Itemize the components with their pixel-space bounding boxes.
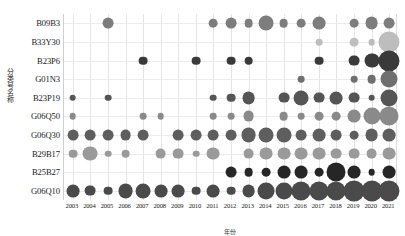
bubble-g06q50-2008[interactable] [157,113,164,120]
bubble-b23p6-2020[interactable] [364,53,379,68]
bubble-b23p19-2012[interactable] [227,93,236,102]
bubble-b09b3-2012[interactable] [226,18,237,29]
bubble-b25b27-2021[interactable] [383,166,396,179]
bubble-b09b3-2013[interactable] [244,19,253,28]
bubble-b23p19-2017[interactable] [313,92,324,103]
bubble-g06q30-2005[interactable] [103,129,114,140]
bubble-g06q10-2010[interactable] [191,186,200,195]
bubble-b29b17-2018[interactable] [331,148,342,159]
bubble-b25b27-2018[interactable] [327,163,346,182]
bubble-b23p19-2005[interactable] [105,94,112,101]
bubble-g06q10-2004[interactable] [85,185,96,196]
bubble-b25b27-2014[interactable] [262,168,271,177]
bubble-g06q30-2013[interactable] [241,127,256,142]
bubble-g06q10-2012[interactable] [227,186,236,195]
bubble-g06q30-2015[interactable] [276,127,291,142]
bubble-g01n3-2020[interactable] [367,75,376,84]
bubble-b23p19-2020[interactable] [368,94,375,101]
bubble-g06q30-2018[interactable] [331,129,342,140]
bubble-b23p19-2018[interactable] [330,91,343,104]
bubble-b29b17-2008[interactable] [155,148,166,159]
bubble-g06q30-2006[interactable] [120,129,131,140]
bubble-g06q10-2011[interactable] [207,184,220,197]
bubble-g06q30-2004[interactable] [85,129,96,140]
bubble-g06q30-2016[interactable] [296,129,307,140]
bubble-b25b27-2016[interactable] [295,166,308,179]
bubble-b29b17-2005[interactable] [105,150,112,157]
bubble-g06q30-2007[interactable] [138,129,149,140]
bubble-g06q50-2007[interactable] [140,113,147,120]
bubble-b23p6-2012[interactable] [227,56,236,65]
bubble-g06q30-2014[interactable] [259,127,274,142]
bubble-g06q30-2010[interactable] [190,129,201,140]
bubble-g06q10-2008[interactable] [154,184,167,197]
bubble-b29b17-2019[interactable] [349,148,360,159]
bubble-g06q10-2021[interactable] [379,180,400,201]
bubble-g06q30-2012[interactable] [226,129,237,140]
bubble-b25b27-2019[interactable] [348,166,361,179]
bubble-b09b3-2011[interactable] [209,19,218,28]
bubble-g06q30-2020[interactable] [365,128,378,141]
bubble-b33y30-2019[interactable] [350,38,359,47]
bubble-g01n3-2021[interactable] [381,71,398,88]
bubble-b33y30-2020[interactable] [368,39,375,46]
bubble-g06q30-2021[interactable] [383,128,396,141]
bubble-g06q50-2019[interactable] [348,110,361,123]
bubble-b29b17-2006[interactable] [121,149,130,158]
bubble-b09b3-2017[interactable] [312,17,325,30]
bubble-b25b27-2013[interactable] [244,168,253,177]
bubble-b29b17-2021[interactable] [383,147,396,160]
bubble-g06q10-2013[interactable] [242,184,255,197]
bubble-b25b27-2015[interactable] [277,166,290,179]
bubble-b09b3-2016[interactable] [297,19,306,28]
bubble-b23p19-2011[interactable] [210,94,217,101]
bubble-g06q10-2003[interactable] [66,184,79,197]
bubble-g06q50-2020[interactable] [363,108,380,125]
bubble-g06q10-2015[interactable] [275,182,292,199]
bubble-g06q50-2013[interactable] [243,111,254,122]
bubble-g06q30-2009[interactable] [173,129,184,140]
bubble-b09b3-2019[interactable] [350,19,359,28]
bubble-b25b27-2017[interactable] [315,168,324,177]
bubble-b23p6-2013[interactable] [244,56,253,65]
bubble-b23p6-2021[interactable] [379,50,400,71]
bubble-b29b17-2010[interactable] [192,150,199,157]
bubble-g06q50-2015[interactable] [279,112,288,121]
bubble-b23p6-2007[interactable] [139,56,148,65]
bubble-b23p19-2016[interactable] [294,90,309,105]
bubble-g06q50-2018[interactable] [332,112,341,121]
bubble-b23p19-2019[interactable] [349,92,360,103]
bubble-b09b3-2014[interactable] [259,16,274,31]
bubble-b23p19-2015[interactable] [278,92,289,103]
bubble-b29b17-2017[interactable] [312,147,325,160]
bubble-g06q10-2017[interactable] [309,181,328,200]
bubble-g06q10-2007[interactable] [136,183,151,198]
bubble-b09b3-2015[interactable] [279,19,288,28]
bubble-g06q30-2017[interactable] [312,128,325,141]
bubble-g06q50-2017[interactable] [315,112,324,121]
bubble-g06q10-2014[interactable] [258,182,275,199]
bubble-b29b17-2003[interactable] [68,149,77,158]
bubble-g06q30-2011[interactable] [208,129,219,140]
bubble-b23p6-2010[interactable] [191,56,200,65]
bubble-g06q10-2009[interactable] [172,184,185,197]
bubble-b09b3-2020[interactable] [365,17,378,30]
bubble-b23p19-2021[interactable] [381,89,398,106]
bubble-b25b27-2020[interactable] [368,169,375,176]
bubble-b29b17-2004[interactable] [83,146,98,161]
bubble-g06q50-2012[interactable] [228,113,235,120]
bubble-g06q30-2019[interactable] [350,131,359,140]
bubble-g06q50-2016[interactable] [298,113,305,120]
bubble-g06q50-2003[interactable] [69,113,76,120]
bubble-b23p19-2003[interactable] [69,94,76,101]
bubble-b09b3-2021[interactable] [384,18,395,29]
bubble-b29b17-2020[interactable] [366,148,377,159]
bubble-g06q10-2006[interactable] [118,183,133,198]
bubble-b29b17-2011[interactable] [207,147,220,160]
bubble-b23p6-2019[interactable] [349,55,360,66]
bubble-b29b17-2013[interactable] [243,148,254,159]
bubble-b33y30-2017[interactable] [316,39,323,46]
bubble-b23p6-2017[interactable] [315,56,324,65]
bubble-b29b17-2014[interactable] [260,147,273,160]
bubble-g01n3-2019[interactable] [351,76,358,83]
